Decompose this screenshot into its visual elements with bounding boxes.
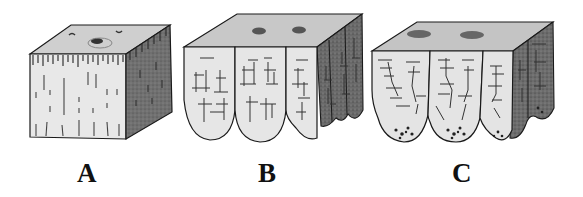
panel-a xyxy=(0,0,195,160)
lobed-block-b-illustration xyxy=(180,0,380,160)
panel-c xyxy=(370,0,583,160)
panel-c-label: C xyxy=(452,160,472,187)
panel-b-label: B xyxy=(258,160,276,187)
panel-a-label: A xyxy=(77,160,97,187)
eroded-block-c-illustration xyxy=(370,0,583,160)
cube-a-illustration xyxy=(0,0,195,160)
panel-b xyxy=(180,0,380,160)
